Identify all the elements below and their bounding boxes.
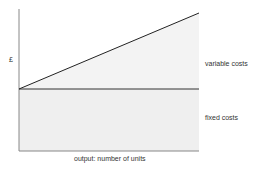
variable-costs-label: variable costs <box>205 60 248 67</box>
fixed-costs-label: fixed costs <box>205 114 238 121</box>
y-axis-label: £ <box>9 56 13 63</box>
x-axis-label: output: number of units <box>74 155 146 162</box>
cost-chart <box>0 0 259 169</box>
fixed-costs-area <box>19 89 199 151</box>
